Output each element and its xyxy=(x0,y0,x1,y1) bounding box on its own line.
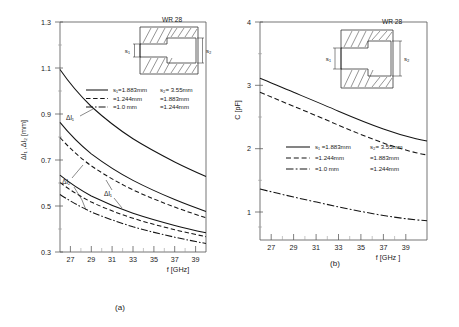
annotation-label: Δl₁ xyxy=(104,190,113,197)
subfigure-caption-b: (b) xyxy=(330,259,340,268)
x-tick-label: 35 xyxy=(150,255,158,264)
legend-a: s₁=1.883mm =1.244mm =1.0 mm s₂= 3.55mm =… xyxy=(86,86,193,110)
legend-label: =1.244mm xyxy=(113,95,142,102)
x-tick-label: 29 xyxy=(87,255,95,264)
y-tick-label: 0.9 xyxy=(41,110,51,119)
x-axis-ticks-b: 27 29 31 33 35 37 39 xyxy=(267,234,410,252)
chart-a: 1.3 1.1 0.9 0.7 0.5 0.3 xyxy=(0,0,229,327)
x-tick-label: 35 xyxy=(357,243,365,252)
x-tick-label: 39 xyxy=(402,243,410,252)
inset-dim-s2: s₂ xyxy=(404,55,410,62)
annotation-dl1-mid: Δl₁ xyxy=(104,180,122,208)
inset-title: WR 28 xyxy=(382,18,402,25)
x-axis-label-b: f [GHz ] xyxy=(376,253,400,262)
legend-label: =1.883mm xyxy=(370,154,399,161)
y-tick-label: 0.7 xyxy=(41,156,51,165)
x-tick-label: 29 xyxy=(290,243,298,252)
legend-label: s₂= 3.55mm xyxy=(370,143,403,150)
x-tick-label: 33 xyxy=(129,255,137,264)
legend-label: =1.883mm xyxy=(160,95,189,102)
inset-waveguide-a: WR 28 xyxy=(125,16,212,74)
inset-waveguide-b: WR 28 s₁ xyxy=(326,18,410,88)
y-tick-label: 1.3 xyxy=(41,18,51,27)
x-axis-label-a: f [GHz] xyxy=(167,265,189,274)
legend-label: =1.244mm xyxy=(370,165,399,172)
x-tick-label: 31 xyxy=(312,243,320,252)
panel-a: 1.3 1.1 0.9 0.7 0.5 0.3 xyxy=(0,0,229,327)
panel-b: 4 3 2 1 27 29 xyxy=(230,0,459,327)
legend-label: =1.0 mm xyxy=(315,165,339,172)
inset-dim-s2: s₂ xyxy=(206,47,212,54)
axes-a xyxy=(60,22,206,252)
y-tick-label: 1.1 xyxy=(41,64,51,73)
y-axis-ticks-b: 4 3 2 1 xyxy=(247,18,263,227)
x-tick-label: 39 xyxy=(192,255,200,264)
x-tick-label: 33 xyxy=(335,243,343,252)
legend-label: =1.244mm xyxy=(160,103,189,110)
y-tick-label: 3 xyxy=(247,81,251,90)
curve-dl2-s1-10 xyxy=(60,195,206,244)
legend-label: s₂= 3.55mm xyxy=(160,86,193,93)
annotation-label: Δl₂ xyxy=(62,178,71,185)
x-axis-ticks-a: 27 29 31 33 35 37 39 xyxy=(66,246,199,264)
x-tick-label: 37 xyxy=(379,243,387,252)
inset-dim-s1: s₁ xyxy=(125,47,130,54)
curve-c-s1-10 xyxy=(260,189,427,221)
chart-b: 4 3 2 1 27 29 xyxy=(230,0,459,327)
y-axis-label-a: Δl₁ ,Δl₂ [mm] xyxy=(19,120,28,160)
x-tick-label: 27 xyxy=(66,255,74,264)
x-tick-label: 37 xyxy=(171,255,179,264)
y-tick-label: 4 xyxy=(247,18,251,27)
annotation-dl1-top: Δl₁ xyxy=(66,109,93,121)
curve-dl1-s1-10 xyxy=(60,175,206,233)
inset-title: WR 28 xyxy=(162,16,182,23)
legend-label: s₁ =1.883mm xyxy=(315,143,351,150)
y-tick-label: 0.3 xyxy=(41,248,51,257)
inset-dim-s1: s₁ xyxy=(326,55,331,62)
curve-dl2-s1-1883 xyxy=(60,138,206,218)
subfigure-caption-a: (a) xyxy=(115,303,125,312)
y-axis-label-b: C [pF] xyxy=(233,100,242,120)
legend-label: =1.244mm xyxy=(315,154,344,161)
x-tick-label: 31 xyxy=(108,255,116,264)
y-tick-label: 1 xyxy=(247,208,251,217)
legend-label: =1.0 mm xyxy=(113,103,137,110)
legend-b: s₁ =1.883mm =1.244mm =1.0 mm s₂= 3.55mm … xyxy=(286,143,403,172)
y-tick-label: 0.5 xyxy=(41,202,51,211)
x-tick-label: 27 xyxy=(267,243,275,252)
figure-root: 1.3 1.1 0.9 0.7 0.5 0.3 xyxy=(0,0,459,327)
legend-label: s₁=1.883mm xyxy=(113,86,147,93)
annotation-label: Δl₁ xyxy=(66,114,75,121)
y-tick-label: 2 xyxy=(247,144,251,153)
axes-b xyxy=(260,22,427,240)
